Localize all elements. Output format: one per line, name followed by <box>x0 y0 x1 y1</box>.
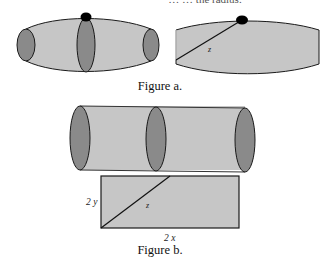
middle-cross-section <box>146 107 166 171</box>
figure-a-right-surface: z <box>176 16 319 74</box>
black-dot-marker <box>236 16 248 25</box>
figure-b-caption: Figure b. <box>137 243 182 257</box>
right-end-section <box>235 108 255 172</box>
label-2y: 2 y <box>86 197 98 207</box>
diagram: … … the radius. z Figure a. 2 y z 2 x Fi… <box>0 0 323 257</box>
figure-b-unrolled-rectangle: 2 y z 2 x <box>86 176 239 243</box>
figure-a-caption: Figure a. <box>138 79 182 93</box>
right-end-section <box>143 29 159 61</box>
left-end-section <box>17 29 35 61</box>
label-2x: 2 x <box>164 233 176 243</box>
top-text-fragment: … … the radius. <box>168 0 242 5</box>
middle-cross-section <box>77 18 95 72</box>
black-dot-marker <box>81 13 92 22</box>
unrolled-rect <box>101 176 239 228</box>
left-end-section <box>70 106 90 170</box>
cylinder-bottom-edge <box>80 170 245 172</box>
figure-a-left-tube <box>17 13 159 73</box>
figure-b-cylinder <box>70 106 255 172</box>
